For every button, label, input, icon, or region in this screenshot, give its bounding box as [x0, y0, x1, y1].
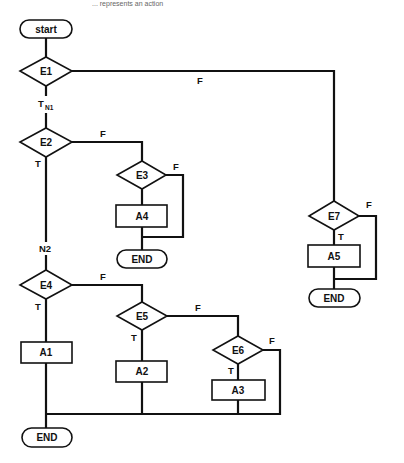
label-e7-false: F [366, 199, 372, 210]
edge-e1-e7 [72, 71, 334, 201]
label-e1-true-sub: N1 [45, 104, 54, 111]
node-e5: E5 [117, 302, 167, 330]
label-e1-true: T [38, 98, 44, 109]
node-end1-label: END [131, 254, 152, 265]
node-e7-label: E7 [328, 211, 341, 222]
node-a2: A2 [116, 361, 167, 382]
node-end3: END [22, 428, 72, 447]
label-e6-false: F [269, 335, 275, 346]
label-e5-true: T [131, 332, 137, 343]
label-e2-true: T [35, 158, 41, 169]
node-a2-label: A2 [136, 366, 149, 377]
node-start: start [20, 20, 72, 38]
caption-text: ... represents an action [92, 0, 163, 8]
label-e7-true: T [338, 231, 344, 242]
label-e4-true: T [35, 301, 41, 312]
label-n2: N2 [39, 243, 51, 254]
node-e2-label: E2 [40, 137, 53, 148]
edge-e5-e6 [167, 316, 238, 336]
label-e2-false: F [100, 128, 106, 139]
node-e4: E4 [20, 270, 72, 299]
node-a5: A5 [308, 245, 360, 267]
flowchart: ... represents an action [0, 0, 404, 463]
node-e3-label: E3 [136, 170, 149, 181]
edge-labels: T N1 F T F F N2 T F T F T F T F [35, 75, 372, 376]
edge-e2-e3 [72, 142, 142, 161]
node-e6-label: E6 [232, 345, 245, 356]
node-e1-label: E1 [40, 66, 53, 77]
node-start-label: start [35, 24, 57, 35]
node-e3: E3 [117, 161, 166, 189]
node-e5-label: E5 [136, 311, 149, 322]
node-a3: A3 [212, 380, 265, 400]
edge-e4-e5 [72, 285, 142, 302]
label-e6-true: T [228, 365, 234, 376]
node-a3-label: A3 [232, 385, 245, 396]
node-a5-label: A5 [328, 251, 341, 262]
connectors [46, 38, 376, 428]
node-e4-label: E4 [40, 280, 53, 291]
node-a4: A4 [116, 205, 167, 227]
node-e1: E1 [20, 57, 72, 86]
node-a4-label: A4 [136, 211, 149, 222]
node-end1: END [117, 250, 167, 268]
label-e3-false: F [173, 161, 179, 172]
node-end2: END [309, 289, 360, 307]
node-e6: E6 [213, 336, 263, 364]
node-a1-label: A1 [40, 347, 53, 358]
node-end2-label: END [323, 293, 344, 304]
node-e7: E7 [309, 201, 359, 230]
node-a1: A1 [21, 342, 72, 363]
label-e5-false: F [195, 302, 201, 313]
node-e2: E2 [20, 128, 72, 157]
label-e1-false: F [197, 75, 203, 86]
label-e4-false: F [100, 271, 106, 282]
node-end3-label: END [36, 432, 57, 443]
